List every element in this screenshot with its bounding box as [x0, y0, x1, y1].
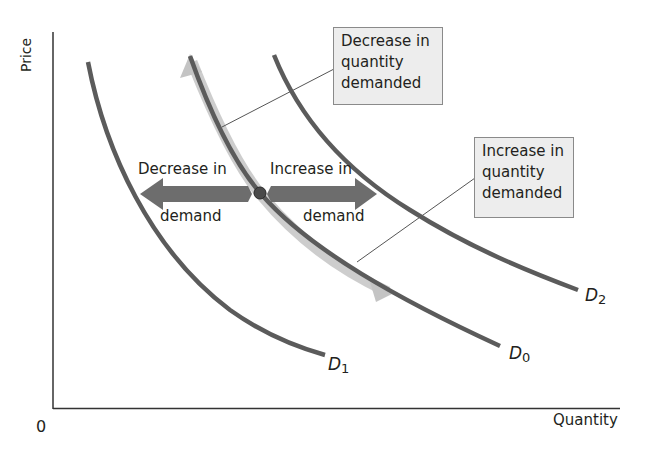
increase-demand-arrow-icon	[267, 178, 377, 210]
box-line: quantity	[341, 52, 436, 73]
box-line: demanded	[341, 73, 436, 94]
leader-line-decrease-qd	[222, 69, 334, 127]
curve-label-d2: D2	[585, 285, 606, 307]
increase-demand-label-top: Increase in	[270, 161, 352, 178]
y-axis-label: Price	[18, 38, 35, 72]
curve-letter: D	[328, 354, 341, 374]
increase-demand-label-bottom: demand	[303, 208, 365, 225]
curve-letter: D	[585, 285, 598, 305]
curve-letter: D	[509, 343, 522, 363]
leader-line-increase-qd	[357, 178, 475, 262]
box-line: demanded	[482, 183, 567, 204]
curve-subscript: 2	[598, 292, 606, 307]
curve-subscript: 1	[341, 361, 349, 376]
demand-shift-diagram	[0, 0, 652, 451]
decrease-demand-label-top: Decrease in	[138, 161, 227, 178]
increase-quantity-demanded-box: Increase in quantity demanded	[474, 137, 574, 218]
curve-subscript: 0	[522, 350, 530, 365]
curve-label-d1: D1	[328, 354, 349, 376]
curve-label-d0: D0	[509, 343, 530, 365]
box-line: Decrease in	[341, 31, 436, 52]
decrease-quantity-demanded-box: Decrease in quantity demanded	[333, 27, 443, 105]
point-on-d0	[254, 187, 266, 199]
box-line: quantity	[482, 162, 567, 183]
decrease-demand-label-bottom: demand	[160, 208, 222, 225]
decrease-demand-arrow-icon	[140, 178, 252, 210]
box-line: Increase in	[482, 141, 567, 162]
x-axis-label: Quantity	[553, 412, 618, 429]
origin-label: 0	[36, 418, 46, 435]
